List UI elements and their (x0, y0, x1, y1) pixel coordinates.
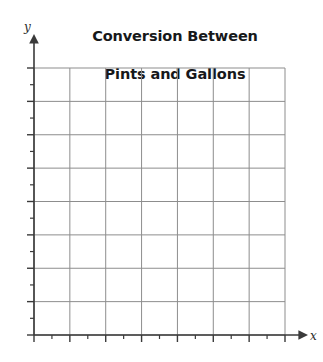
x-axis-ticks (34, 335, 285, 342)
coordinate-plane (0, 0, 323, 362)
y-axis-ticks (27, 68, 34, 335)
grid-horizontal-lines (34, 68, 285, 335)
chart-figure: Conversion Between Pints and Gallons y x (0, 0, 323, 362)
